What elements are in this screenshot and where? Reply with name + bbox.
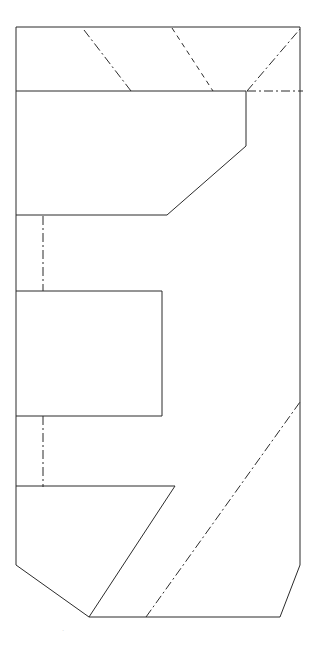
technical-drawing-canvas xyxy=(0,0,317,646)
faint-artifact-mark: . xyxy=(62,624,65,633)
drawing-sheet: . xyxy=(0,0,317,646)
sheet-background xyxy=(0,0,317,646)
